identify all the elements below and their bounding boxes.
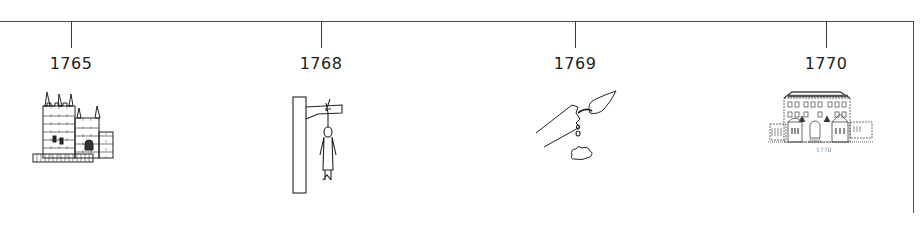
tick-1769 [575, 21, 576, 48]
year-label-1768: 1768 [291, 54, 351, 73]
year-label-1769: 1769 [545, 54, 605, 73]
timeline-axis [0, 21, 914, 22]
timeline-frame-right-border [913, 21, 914, 213]
quill-pen-icon [534, 89, 620, 169]
year-label-1765: 1765 [41, 54, 101, 73]
castle-icon [31, 88, 117, 166]
tick-1765 [71, 21, 72, 48]
year-label-1770: 1770 [796, 54, 856, 73]
tick-1768 [321, 21, 322, 48]
mansion-caption: 1770 [816, 146, 831, 153]
gallows-icon [290, 95, 360, 195]
tick-1770 [826, 21, 827, 48]
mansion-icon: 1770 [768, 88, 876, 158]
